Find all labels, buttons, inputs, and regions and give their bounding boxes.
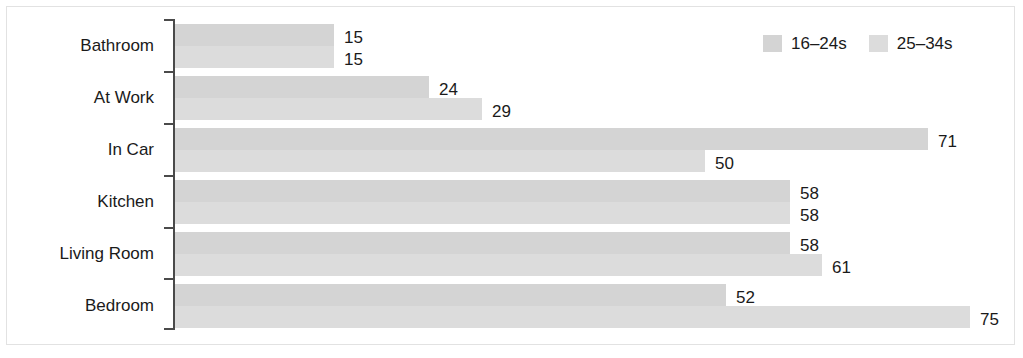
legend-swatch-16-24s-icon xyxy=(763,35,782,52)
bar-value-living-room-16-24s: 58 xyxy=(800,237,819,254)
bar-bathroom-25-34s xyxy=(175,46,334,68)
bar-value-bedroom-25-34s: 75 xyxy=(980,311,999,328)
category-label-at-work: At Work xyxy=(94,89,154,106)
chart-frame: Bathroom 15 15 At Work 24 29 In Car 71 5… xyxy=(6,6,1015,345)
bar-value-in-car-25-34s: 50 xyxy=(715,155,734,172)
plot-area: Bathroom 15 15 At Work 24 29 In Car 71 5… xyxy=(7,7,1014,344)
axis-tick xyxy=(164,71,174,73)
bar-living-room-16-24s xyxy=(175,232,790,254)
bar-living-room-25-34s xyxy=(175,254,822,276)
axis-tick xyxy=(164,19,174,21)
category-label-bedroom: Bedroom xyxy=(85,297,154,314)
bar-bathroom-16-24s xyxy=(175,24,334,46)
bar-at-work-25-34s xyxy=(175,98,482,120)
bar-value-living-room-25-34s: 61 xyxy=(832,259,851,276)
bar-value-bathroom-16-24s: 15 xyxy=(344,29,363,46)
bar-in-car-25-34s xyxy=(175,150,705,172)
bar-kitchen-25-34s xyxy=(175,202,790,224)
chart-legend: 16–24s 25–34s xyxy=(763,35,953,52)
axis-tick xyxy=(164,175,174,177)
axis-tick xyxy=(164,123,174,125)
axis-tick xyxy=(164,278,174,280)
legend-label-16-24s: 16–24s xyxy=(791,35,847,52)
bar-value-at-work-25-34s: 29 xyxy=(492,103,511,120)
axis-tick xyxy=(164,227,174,229)
category-label-bathroom: Bathroom xyxy=(80,37,154,54)
category-label-in-car: In Car xyxy=(108,141,154,158)
bar-bedroom-16-24s xyxy=(175,284,726,306)
bar-in-car-16-24s xyxy=(175,128,928,150)
bar-value-bedroom-16-24s: 52 xyxy=(736,289,755,306)
bar-value-kitchen-16-24s: 58 xyxy=(800,185,819,202)
category-label-kitchen: Kitchen xyxy=(97,193,154,210)
bar-value-kitchen-25-34s: 58 xyxy=(800,207,819,224)
bar-value-at-work-16-24s: 24 xyxy=(439,81,458,98)
legend-swatch-25-34s-icon xyxy=(869,35,888,52)
axis-tick xyxy=(164,328,174,330)
bar-at-work-16-24s xyxy=(175,76,429,98)
bar-bedroom-25-34s xyxy=(175,306,970,328)
category-label-living-room: Living Room xyxy=(60,245,155,262)
bar-kitchen-16-24s xyxy=(175,180,790,202)
legend-item-25-34s[interactable]: 25–34s xyxy=(869,35,953,52)
legend-label-25-34s: 25–34s xyxy=(897,35,953,52)
legend-item-16-24s[interactable]: 16–24s xyxy=(763,35,847,52)
bar-value-in-car-16-24s: 71 xyxy=(938,133,957,150)
bar-value-bathroom-25-34s: 15 xyxy=(344,51,363,68)
